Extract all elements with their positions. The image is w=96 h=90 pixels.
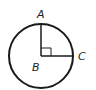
circle-diagram: A B C: [0, 0, 96, 90]
label-a: A: [36, 8, 45, 21]
right-angle-marker: [41, 48, 51, 56]
label-c: C: [78, 50, 86, 63]
label-b: B: [32, 61, 40, 74]
